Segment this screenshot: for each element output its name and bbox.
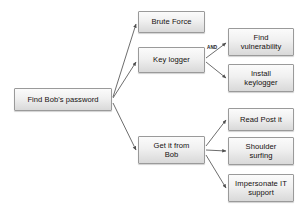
node-label: Shoulder surfing: [231, 142, 291, 161]
node-impersonate-it-support[interactable]: Impersonate IT support: [228, 174, 294, 202]
and-gate-label: AND: [207, 45, 217, 50]
node-shoulder-surfing[interactable]: Shoulder surfing: [228, 137, 294, 165]
edge-find-bobs-password-to-brute-force: [113, 24, 136, 97]
attack-tree-diagram: Find Bob's password Brute Force Key logg…: [0, 0, 308, 214]
node-label: Impersonate IT support: [231, 179, 291, 198]
node-install-keylogger[interactable]: Install keylogger: [228, 64, 294, 92]
node-label: Brute Force: [141, 17, 202, 26]
node-key-logger[interactable]: Key logger: [138, 47, 205, 73]
node-get-it-from-bob[interactable]: Get it from Bob: [138, 136, 205, 164]
node-find-vulnerability[interactable]: Find vulnerability: [228, 28, 294, 56]
edge-find-bobs-password-to-key-logger: [113, 62, 136, 98]
edge-get-it-from-bob-to-impersonate-it: [206, 155, 226, 188]
node-label: Find Bob's password: [17, 95, 109, 104]
edge-get-it-from-bob-to-shoulder-surfing: [206, 150, 226, 151]
node-find-bobs-password[interactable]: Find Bob's password: [14, 88, 112, 111]
edge-key-logger-to-install-keylogger: [206, 62, 226, 78]
node-label: Find vulnerability: [231, 33, 291, 52]
edge-get-it-from-bob-to-read-post-it: [206, 120, 226, 146]
node-brute-force[interactable]: Brute Force: [138, 11, 205, 33]
node-label: Key logger: [141, 55, 202, 64]
node-label: Get it from Bob: [141, 141, 202, 160]
node-label: Install keylogger: [231, 69, 291, 88]
node-read-post-it[interactable]: Read Post it: [228, 108, 294, 131]
node-label: Read Post it: [231, 115, 291, 124]
edge-find-bobs-password-to-get-it-from-bob: [113, 103, 136, 150]
